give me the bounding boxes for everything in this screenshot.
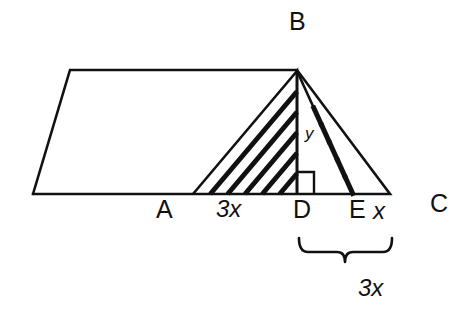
- label-vertex-d: D: [293, 197, 311, 222]
- label-brace-dc: 3x: [358, 276, 383, 300]
- label-vertex-c: C: [430, 191, 448, 216]
- brace-dc: [299, 238, 392, 262]
- label-vertex-e: E: [349, 197, 366, 222]
- hatch-lines-abd: [210, 92, 297, 195]
- label-height-bd: y: [305, 125, 314, 142]
- label-segment-ad-text: 3x: [216, 195, 241, 222]
- label-segment-ec: x: [373, 199, 385, 223]
- parallelogram-outline: [33, 70, 390, 194]
- geometry-drawing: [0, 0, 475, 321]
- geometry-figure: B A 3x D E x C y 3x: [0, 0, 475, 321]
- right-angle-marker: [297, 172, 314, 194]
- label-vertex-b: B: [289, 9, 306, 34]
- label-vertex-a: A: [156, 197, 173, 222]
- label-segment-ad: 3x: [216, 197, 241, 221]
